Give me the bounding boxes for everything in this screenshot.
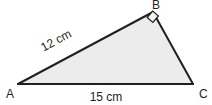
vertex-label-c: C: [199, 87, 208, 101]
side-ac-measure-label: 15 cm: [90, 90, 123, 104]
geometry-diagram: A B C 12 cm 15 cm: [0, 0, 212, 105]
vertex-label-a: A: [6, 87, 14, 101]
triangle-figure: A B C 12 cm 15 cm: [0, 0, 212, 105]
vertex-label-b: B: [152, 0, 160, 12]
